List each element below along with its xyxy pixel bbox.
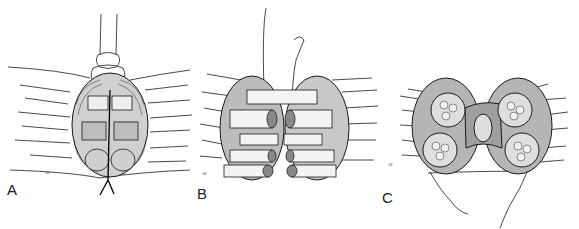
panel-label-c: C (382, 190, 393, 205)
surgical-illustration-figure: A ᴶᴳ (0, 0, 579, 229)
panel-label-b: B (197, 186, 207, 201)
signature-mark-b: ᴶᴳ (202, 171, 206, 177)
panel-b: B ᴶᴳ (192, 0, 384, 229)
panel-b-drawing (192, 0, 384, 229)
signature-mark-c: ᴶᴳ (388, 162, 392, 168)
panel-c-drawing (380, 0, 579, 229)
panel-a: A ᴶᴳ (0, 0, 195, 229)
signature-mark-a: ᴶᴳ (45, 170, 49, 176)
panel-label-a: A (7, 182, 17, 197)
panel-c: C ᴶᴳ (380, 0, 579, 229)
panel-a-drawing (0, 0, 195, 229)
